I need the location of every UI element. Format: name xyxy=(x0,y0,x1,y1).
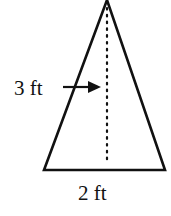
height-label: 3 ft xyxy=(14,78,43,99)
height-arrow-head-icon xyxy=(88,81,101,93)
triangle-figure: 3 ft 2 ft xyxy=(0,0,171,216)
triangle-outline xyxy=(44,0,165,170)
base-label: 2 ft xyxy=(78,183,107,204)
